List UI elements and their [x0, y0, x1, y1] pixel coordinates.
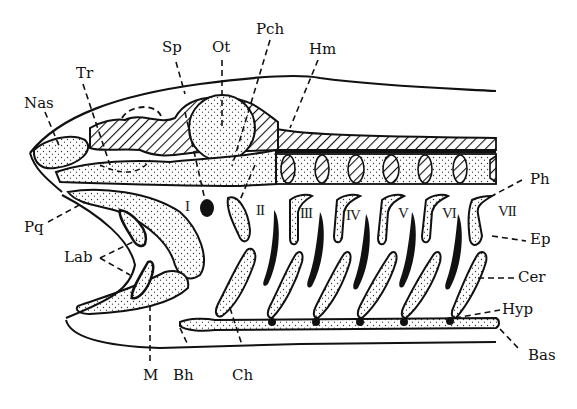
label-tr: Tr — [76, 66, 93, 81]
label-cer: Cer — [518, 270, 546, 285]
vertebral-top — [270, 128, 496, 150]
label-m: M — [143, 368, 158, 383]
arch-label-1: I — [185, 199, 189, 214]
ceratohyal — [216, 249, 255, 317]
label-ph: Ph — [530, 172, 550, 187]
label-sp: Sp — [162, 40, 182, 55]
arch-label-5: V — [398, 206, 408, 221]
spiracle — [200, 199, 214, 217]
hyomandibula — [228, 197, 250, 241]
arch-label-7: VII — [498, 204, 516, 219]
gill-slit-1 — [263, 210, 279, 286]
label-bas: Bas — [528, 348, 556, 363]
label-pq: Pq — [24, 220, 44, 235]
arch-label-2: II — [256, 203, 264, 218]
skull-drawing — [0, 0, 577, 409]
label-nas: Nas — [24, 96, 54, 111]
label-ch: Ch — [232, 368, 253, 383]
label-bh: Bh — [173, 368, 194, 383]
arch-label-6: VI — [442, 206, 456, 221]
arch-label-3: III — [300, 206, 312, 221]
label-ot: Ot — [212, 40, 230, 55]
label-lab: Lab — [64, 250, 93, 265]
label-pch: Pch — [256, 22, 284, 37]
label-hyp: Hyp — [502, 302, 533, 317]
arch-label-4: IV — [346, 208, 360, 223]
label-hm: Hm — [309, 42, 336, 57]
skull-diagram: Nas Tr Sp Ot Pch Hm Ph Ep Cer Hyp Bas Pq… — [0, 0, 577, 409]
label-ep: Ep — [530, 232, 551, 247]
